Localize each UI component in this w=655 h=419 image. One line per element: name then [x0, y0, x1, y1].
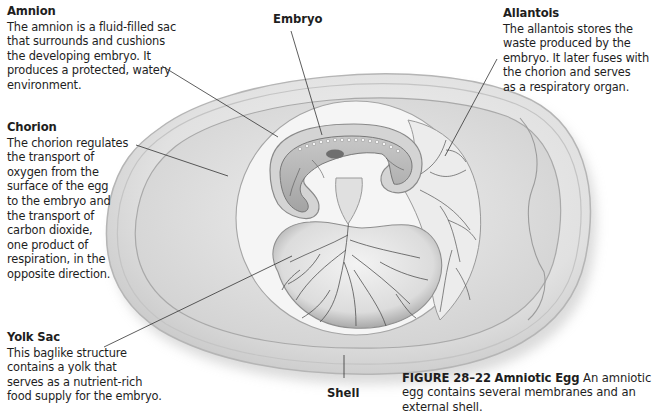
allantois-title: Allantois — [503, 6, 655, 21]
chorion-description: The chorion regulates the transport of o… — [7, 136, 167, 282]
amnion-description: The amnion is a fluid-filled sac that su… — [7, 20, 227, 93]
label-amnion: Amnion The amnion is a fluid-filled sac … — [7, 4, 227, 93]
yolk-sac-description: This baglike structure contains a yolk t… — [7, 346, 207, 404]
figure-caption: FIGURE 28–22 Amniotic Egg An amniotic eg… — [402, 371, 655, 414]
label-allantois: Allantois The allantois stores the waste… — [503, 6, 655, 95]
chorion-title: Chorion — [7, 120, 167, 135]
figure-title: Amniotic Egg — [495, 371, 580, 385]
label-chorion: Chorion The chorion regulates the transp… — [7, 120, 167, 282]
label-yolk-sac: Yolk Sac This baglike structure contains… — [7, 330, 207, 404]
yolk-sac-title: Yolk Sac — [7, 330, 207, 345]
label-shell: Shell — [327, 386, 359, 400]
amniotic-egg-figure: Amnion The amnion is a fluid-filled sac … — [0, 0, 655, 419]
label-embryo: Embryo — [273, 12, 323, 26]
embryo-heart — [326, 150, 344, 159]
amnion-title: Amnion — [7, 4, 227, 19]
figure-number: FIGURE 28–22 — [402, 371, 491, 385]
allantois-description: The allantois stores the waste produced … — [503, 22, 655, 95]
